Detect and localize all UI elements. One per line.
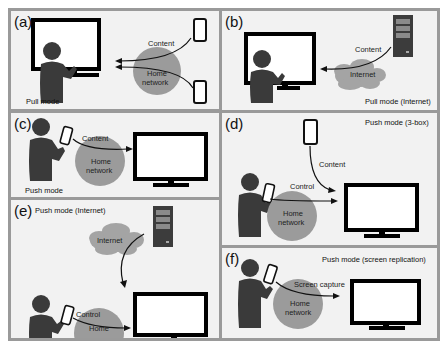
- panel-d-graphics: [222, 113, 437, 245]
- display-icon: [135, 134, 206, 187]
- panel-c-graphics: [11, 113, 219, 197]
- smartphone-icon: [194, 19, 206, 41]
- flow-label-content: Content: [355, 46, 381, 55]
- panel-label: (c): [14, 116, 32, 131]
- panel-label: (d): [225, 116, 243, 131]
- network-label-line2: network: [86, 167, 112, 176]
- panel-a-pull-mode: (a) Content Home network Pull mode: [11, 11, 219, 109]
- flow-label-content: Content: [319, 161, 345, 170]
- flow-label-content: Content: [82, 135, 108, 144]
- smartphone-icon: [60, 126, 73, 145]
- display-icon: [135, 294, 206, 338]
- panel-label: (f): [225, 251, 239, 266]
- smartphone-icon: [194, 81, 206, 103]
- panel-e-push-mode-internet: (e) Push mode (Internet) Internet Contro…: [11, 200, 219, 338]
- cloud-label-internet: Internet: [97, 237, 122, 246]
- panel-caption: Push mode (Internet): [35, 207, 105, 215]
- network-label-line2: network: [142, 79, 168, 88]
- panel-c-push-mode: (c) Content Home network Push mode: [11, 113, 219, 197]
- server-icon: [153, 206, 173, 247]
- panel-d-push-mode-3-box: (d) Push mode (3-box) Content Control Ho…: [222, 113, 437, 245]
- panel-b-graphics: [222, 11, 437, 110]
- display-icon: [346, 185, 417, 238]
- flow-label-control: Control: [290, 183, 314, 192]
- smartphone-icon: [263, 264, 277, 284]
- panel-label: (b): [225, 14, 243, 29]
- panel-a-graphics: [11, 11, 219, 109]
- smartphone-icon: [61, 305, 74, 325]
- panel-caption: Push mode: [25, 187, 63, 195]
- panel-label: (a): [14, 14, 32, 29]
- network-label-line1: Home: [89, 325, 109, 334]
- panel-b-pull-mode-internet: (b) Content Internet Pull mode (Internet…: [222, 11, 437, 110]
- flow-label-control: Control: [76, 311, 100, 320]
- cloud-label-internet: Internet: [350, 71, 375, 80]
- panel-caption: Push mode (3-box): [365, 119, 429, 127]
- panel-caption: Push mode (screen replication): [322, 256, 426, 264]
- display-icon: [352, 281, 419, 330]
- network-label-line2: network: [278, 219, 304, 228]
- person-icon: [29, 295, 64, 338]
- panel-f-push-mode-screen-replication: (f) Push mode (screen replication) Scree…: [222, 248, 437, 338]
- panel-e-graphics: [11, 200, 219, 338]
- panel-caption: Pull mode (Internet): [365, 98, 431, 106]
- panel-label: (e): [14, 203, 32, 218]
- person-icon: [29, 118, 65, 181]
- network-label-line2: network: [285, 309, 311, 318]
- server-icon: [393, 15, 413, 57]
- flow-label-screen-capture: Screen capture: [294, 281, 345, 290]
- flow-label-content: Content: [148, 40, 174, 49]
- panel-caption: Pull mode: [26, 98, 59, 106]
- person-icon: [238, 173, 273, 237]
- smartphone-icon: [304, 120, 317, 144]
